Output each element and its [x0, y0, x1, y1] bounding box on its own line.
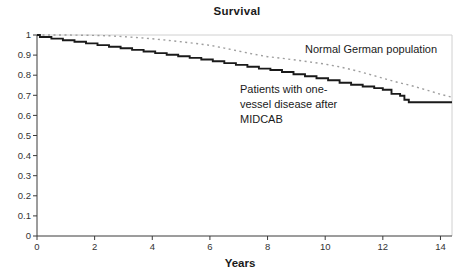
y-tick-label: 0.1	[18, 210, 31, 221]
annotation-patients: Patients with one- vessel disease after …	[240, 82, 337, 127]
x-tick-label: 12	[378, 241, 389, 252]
y-tick-label: 0.5	[18, 130, 31, 141]
x-tick-label: 2	[92, 241, 97, 252]
x-tick-label: 14	[435, 241, 446, 252]
y-tick-label: 0.8	[18, 69, 31, 80]
y-tick-label: 0.9	[18, 49, 31, 60]
survival-chart: Survival 00.10.20.30.40.50.60.70.80.9102…	[0, 0, 461, 280]
x-axis-label: Years	[225, 257, 256, 269]
x-tick-label: 10	[320, 241, 331, 252]
x-tick-label: 0	[34, 241, 39, 252]
annotation-patients-line3: MIDCAB	[240, 112, 337, 127]
x-tick-label: 4	[150, 241, 155, 252]
y-tick-label: 0.6	[18, 110, 31, 121]
annotation-patients-line1: Patients with one-	[240, 82, 337, 97]
x-tick-label: 8	[265, 241, 270, 252]
annotation-patients-line2: vessel disease after	[240, 97, 337, 112]
y-tick-label: 0.2	[18, 190, 31, 201]
y-tick-label: 1	[26, 29, 31, 40]
y-tick-label: 0.7	[18, 90, 31, 101]
y-tick-label: 0.3	[18, 170, 31, 181]
y-tick-label: 0.4	[18, 150, 31, 161]
annotation-normal-population: Normal German population	[305, 42, 437, 57]
y-tick-label: 0	[26, 230, 31, 241]
x-tick-label: 6	[207, 241, 212, 252]
